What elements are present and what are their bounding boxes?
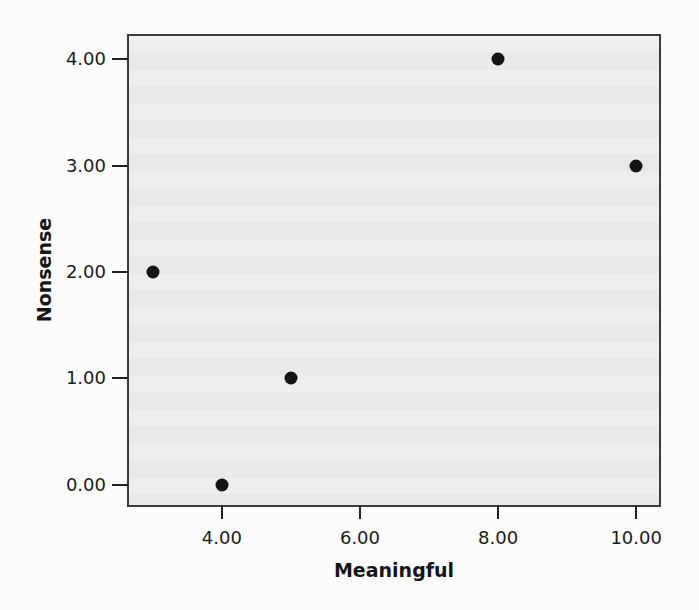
y-tick-label: 2.00 [38, 262, 106, 282]
y-tick-label: 3.00 [38, 156, 106, 176]
y-tick-label: 0.00 [38, 475, 106, 495]
data-point [146, 266, 159, 279]
data-point [284, 372, 297, 385]
data-point [215, 478, 228, 491]
y-tick-mark [112, 58, 128, 60]
y-tick-label: 4.00 [38, 50, 106, 70]
data-point [630, 159, 643, 172]
plot-area [127, 34, 661, 507]
data-point [492, 53, 505, 66]
x-tick-mark [221, 506, 223, 519]
x-tick-mark [497, 506, 499, 519]
x-tick-label: 4.00 [202, 528, 242, 548]
y-tick-mark [112, 377, 128, 379]
x-tick-label: 8.00 [478, 528, 518, 548]
x-tick-label: 6.00 [340, 528, 380, 548]
y-tick-mark [112, 165, 128, 167]
y-tick-mark [112, 271, 128, 273]
y-tick-label: 1.00 [38, 369, 106, 389]
scatter-plot: Nonsense Meaningful 0.001.002.003.004.00… [0, 0, 699, 610]
x-tick-mark [635, 506, 637, 519]
x-tick-mark [359, 506, 361, 519]
y-tick-mark [112, 484, 128, 486]
x-tick-label: 10.00 [610, 528, 662, 548]
x-axis-title: Meaningful [334, 559, 454, 581]
